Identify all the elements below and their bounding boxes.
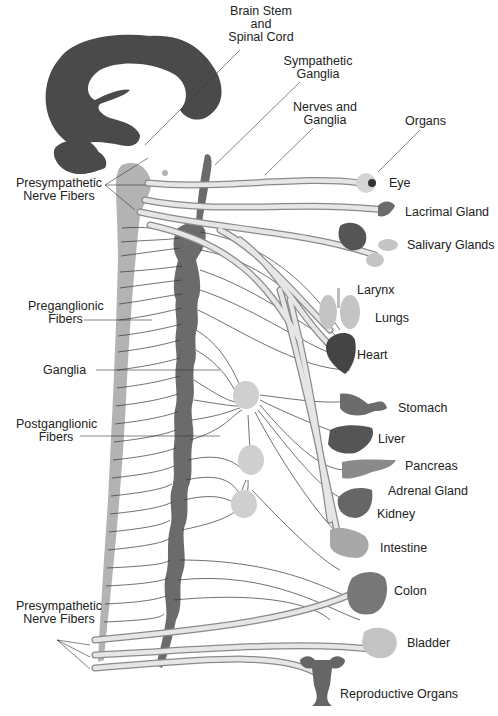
organ-larynx	[337, 288, 340, 308]
organ-colon	[347, 572, 387, 614]
label-line: Nerve Fibers	[14, 190, 104, 203]
label-line: Spinal Cord	[226, 31, 296, 44]
label-bladder: Bladder	[407, 637, 450, 650]
label-kidney: Kidney	[377, 508, 415, 521]
organ-salivary-gland-lower	[366, 253, 384, 267]
spinal-cord	[98, 163, 151, 662]
label-intestine: Intestine	[380, 542, 427, 555]
label-presympathetic-top: Presympathetic Nerve Fibers	[14, 177, 104, 203]
organ-intestine	[330, 528, 369, 558]
label-line: Fibers	[16, 431, 96, 444]
label-nerves-ganglia: Nerves and Ganglia	[290, 101, 360, 127]
label-line: Ganglia	[282, 68, 354, 81]
label-larynx: Larynx	[357, 284, 395, 297]
label-brain-stem: Brain Stem and Spinal Cord	[226, 5, 296, 44]
organ-reproductive	[300, 656, 345, 706]
label-stomach: Stomach	[398, 402, 447, 415]
brain-illustration	[46, 35, 222, 174]
label-pancreas: Pancreas	[405, 460, 458, 473]
label-reproductive-organs: Reproductive Organs	[340, 688, 458, 701]
organ-lacrimal-gland	[378, 202, 395, 217]
label-lungs: Lungs	[375, 312, 409, 325]
label-eye: Eye	[389, 177, 411, 190]
label-colon: Colon	[394, 585, 427, 598]
label-line: Nerve Fibers	[14, 613, 104, 626]
label-line: Fibers	[28, 313, 103, 326]
organ-stomach	[340, 394, 387, 416]
label-line: Ganglia	[290, 114, 360, 127]
label-preganglionic: Preganglionic Fibers	[28, 300, 103, 326]
label-lacrimal-gland: Lacrimal Gland	[405, 206, 489, 219]
label-adrenal-gland: Adrenal Gland	[388, 485, 468, 498]
label-organs: Organs	[405, 115, 446, 128]
organ-pancreas	[342, 460, 396, 479]
organ-salivary-gland-small	[378, 239, 398, 251]
label-liver: Liver	[378, 433, 405, 446]
organ-bladder	[362, 628, 397, 659]
organ-eye	[356, 173, 376, 193]
label-postganglionic: Postganglionic Fibers	[16, 418, 96, 444]
label-ganglia: Ganglia	[43, 364, 86, 377]
label-sympathetic-ganglia: Sympathetic Ganglia	[282, 55, 354, 81]
label-salivary-glands: Salivary Glands	[407, 239, 495, 252]
organ-liver	[328, 425, 373, 453]
organ-kidney	[338, 488, 373, 518]
label-presympathetic-bottom: Presympathetic Nerve Fibers	[14, 600, 104, 626]
label-heart: Heart	[357, 349, 388, 362]
